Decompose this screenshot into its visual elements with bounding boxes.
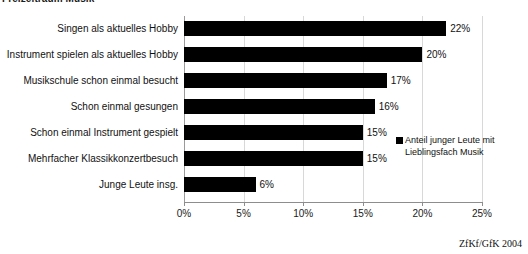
bar-value-label: 16% bbox=[379, 94, 399, 120]
category-label: Mehrfacher Klassikkonzertbesuch bbox=[0, 146, 178, 172]
bar bbox=[184, 125, 363, 140]
source-note: ZfKf/GfK 2004 bbox=[459, 238, 522, 249]
bar-value-label: 22% bbox=[450, 16, 470, 42]
legend-swatch-icon bbox=[396, 137, 403, 144]
bar-row: Instrument spielen als aktuelles Hobby20… bbox=[0, 42, 528, 68]
x-axis-tick-label: 10% bbox=[293, 208, 313, 219]
category-label: Musikschule schon einmal besucht bbox=[0, 68, 178, 94]
bar bbox=[184, 177, 256, 192]
tick-mark bbox=[303, 202, 304, 206]
bar bbox=[184, 99, 375, 114]
bar-value-label: 17% bbox=[391, 68, 411, 94]
bar bbox=[184, 151, 363, 166]
x-axis-tick-label: 15% bbox=[353, 208, 373, 219]
x-axis-tick-label: 0% bbox=[177, 208, 191, 219]
bar-value-label: 20% bbox=[426, 42, 446, 68]
x-axis-tick-label: 25% bbox=[472, 208, 492, 219]
bar-row: Singen als aktuelles Hobby22% bbox=[0, 16, 528, 42]
category-label: Junge Leute insg. bbox=[0, 172, 178, 198]
tick-mark bbox=[363, 202, 364, 206]
chart-title: Freizeitraum Musik bbox=[2, 0, 94, 4]
bar-value-label: 15% bbox=[367, 120, 387, 146]
bar bbox=[184, 73, 387, 88]
bar-value-label: 6% bbox=[260, 172, 274, 198]
chart-legend: Anteil junger Leute mit Lieblingsfach Mu… bbox=[396, 135, 524, 158]
category-label: Schon einmal Instrument gespielt bbox=[0, 120, 178, 146]
category-label: Instrument spielen als aktuelles Hobby bbox=[0, 42, 178, 68]
legend-label-line2: Lieblingsfach Musik bbox=[405, 147, 484, 157]
legend-label-line1: Anteil junger Leute mit bbox=[405, 135, 495, 145]
bar-value-label: 15% bbox=[367, 146, 387, 172]
x-axis-tick-label: 5% bbox=[236, 208, 250, 219]
tick-mark bbox=[422, 202, 423, 206]
tick-mark bbox=[184, 202, 185, 206]
bar-row: Musikschule schon einmal besucht17% bbox=[0, 68, 528, 94]
bar bbox=[184, 21, 446, 36]
bar bbox=[184, 47, 422, 62]
bar-row: Schon einmal gesungen16% bbox=[0, 94, 528, 120]
x-axis-tick-label: 20% bbox=[412, 208, 432, 219]
bar-row: Junge Leute insg.6% bbox=[0, 172, 528, 198]
tick-mark bbox=[244, 202, 245, 206]
tick-mark bbox=[482, 202, 483, 206]
category-label: Singen als aktuelles Hobby bbox=[0, 16, 178, 42]
x-axis-line bbox=[184, 202, 483, 203]
category-label: Schon einmal gesungen bbox=[0, 94, 178, 120]
bar-chart: Freizeitraum Musik Singen als aktuelles … bbox=[0, 0, 528, 254]
